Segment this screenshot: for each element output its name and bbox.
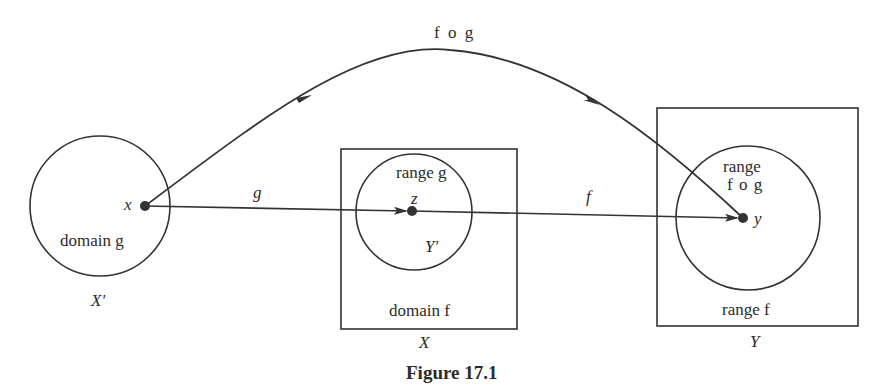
arrow-f	[412, 211, 737, 218]
composition-label: f o g	[434, 24, 475, 41]
diagram-canvas	[0, 0, 887, 389]
range-fog-label-line2: f o g	[727, 176, 763, 193]
point-x-label: x	[124, 196, 132, 213]
arrow-g	[145, 206, 406, 211]
range-fog-label-line1: range	[723, 158, 761, 175]
arrow-g-label: g	[253, 184, 262, 201]
point-x	[140, 201, 150, 211]
point-y	[738, 213, 748, 223]
y-prime-label: Y′	[425, 238, 438, 255]
domain-g-label: domain g	[60, 232, 124, 249]
range-g-label: range g	[396, 164, 447, 181]
arrow-fog-curve	[145, 49, 743, 218]
figure-caption: Figure 17.1	[406, 362, 497, 384]
set-y-label: Y	[750, 333, 759, 350]
range-f-label: range f	[722, 301, 770, 318]
set-x-prime-label: X′	[91, 292, 105, 309]
arrow-f-label: f	[586, 188, 591, 205]
domain-f-label: domain f	[389, 302, 450, 319]
point-z-label: z	[411, 190, 418, 207]
set-x-label: X	[419, 334, 429, 351]
point-y-label: y	[754, 210, 762, 227]
